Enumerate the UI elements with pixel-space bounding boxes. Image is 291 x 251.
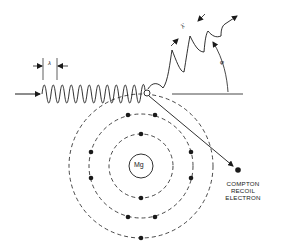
- recoil-electron-path: [149, 96, 233, 166]
- recoil-electron-label: COMPTON RECOIL ELECTRON: [213, 180, 273, 202]
- recoil-label-line-3: ELECTRON: [213, 194, 273, 201]
- incident-wavelength-label: λ: [48, 60, 51, 66]
- outer-shell-electrons: [139, 236, 144, 241]
- incident-photon-wave: [42, 84, 145, 103]
- nucleus-label: Mg: [134, 161, 144, 168]
- recoil-label-line-1: COMPTON: [213, 180, 273, 187]
- electron: [153, 113, 158, 118]
- electron: [139, 236, 144, 241]
- scattering-angle-arc: [213, 42, 228, 92]
- scattering-angle-label: φ: [220, 59, 224, 65]
- electron: [126, 113, 131, 118]
- electron: [89, 150, 94, 155]
- electron: [189, 150, 194, 155]
- electron: [89, 176, 94, 181]
- compton-scattering-diagram: [0, 0, 291, 251]
- recoil-label-line-2: RECOIL: [213, 187, 273, 194]
- scattering-point: [144, 90, 150, 96]
- recoil-electron: [235, 167, 241, 173]
- electron: [139, 132, 144, 137]
- electron: [139, 196, 144, 201]
- scattered-direction-arrow: [225, 16, 237, 24]
- electron: [126, 215, 131, 220]
- scattered-wavelength-marker: [171, 14, 205, 46]
- scattered-photon-wave: [148, 24, 225, 89]
- electron: [189, 176, 194, 181]
- electron: [153, 215, 158, 220]
